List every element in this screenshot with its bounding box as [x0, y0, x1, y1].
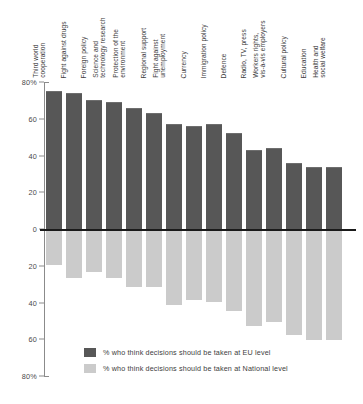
y-axis-tick-label: 60 — [28, 114, 37, 123]
bar-eu-level — [106, 102, 121, 229]
bar-eu-level — [326, 167, 341, 229]
bar-national-level — [266, 230, 281, 322]
category-label-text: Science and technology research — [93, 18, 108, 78]
bar-national-level — [66, 230, 81, 278]
legend-item-national: % who think decisions should be taken at… — [84, 361, 288, 375]
chart-legend: % who think decisions should be taken at… — [84, 345, 288, 377]
bar-eu-level — [66, 93, 81, 229]
bar-national-level — [206, 230, 221, 302]
diverging-bar-chart: 80%604020020406080% Third world cooperat… — [0, 0, 363, 404]
bar-national-level — [186, 230, 201, 300]
bar-eu-level — [166, 124, 181, 229]
category-label-text: Fight against unemployment — [153, 34, 168, 78]
legend-label-national: % who think decisions should be taken at… — [103, 364, 288, 373]
bar-national-level — [226, 230, 241, 311]
y-axis-tick-label: 80% — [22, 78, 37, 87]
category-label-text: Workers rights, vis-à-vis employers — [253, 21, 268, 78]
bar-national-level — [246, 230, 261, 326]
category-label-text: Cultural policy — [280, 36, 287, 78]
bar-eu-level — [206, 124, 221, 229]
y-axis-tick-label: 20 — [28, 188, 37, 197]
bar-eu-level — [86, 100, 101, 229]
bar-national-level — [166, 230, 181, 305]
category-label-text: Defence — [220, 53, 227, 78]
legend-item-eu: % who think decisions should be taken at… — [84, 345, 288, 359]
category-label-text: Fight against drugs — [60, 21, 67, 78]
bar-eu-level — [286, 163, 301, 229]
category-label-text: Education — [300, 48, 307, 78]
bar-eu-level — [266, 148, 281, 229]
legend-swatch-national — [84, 364, 96, 373]
category-label-text: Regional support — [140, 27, 147, 78]
category-label-text: Currency — [180, 51, 187, 78]
bar-eu-level — [306, 167, 321, 229]
y-axis-tick-label: 40 — [28, 151, 37, 160]
y-axis-tick-label: 80% — [22, 372, 37, 381]
y-axis-tick-label: 0 — [33, 225, 37, 234]
bar-national-level — [146, 230, 161, 287]
bar-national-level — [86, 230, 101, 272]
bar-national-level — [46, 230, 61, 265]
bar-eu-level — [226, 133, 241, 229]
category-label-text: Immigration policy — [200, 24, 207, 78]
bar-eu-level — [46, 91, 61, 229]
bar-national-level — [106, 230, 121, 278]
zero-baseline — [40, 229, 356, 231]
y-axis-bottom-cap — [44, 376, 49, 377]
category-label-text: Foreign policy — [80, 36, 87, 78]
category-label-text: Health and social welfare — [313, 37, 328, 78]
legend-swatch-eu — [84, 348, 96, 357]
bar-national-level — [306, 230, 321, 340]
y-axis-tick-label: 40 — [28, 298, 37, 307]
bar-national-level — [126, 230, 141, 287]
category-label-text: Radio, TV, press — [240, 29, 247, 78]
category-label-text: Protection of the environment — [113, 29, 128, 78]
y-axis-tick-label: 20 — [28, 261, 37, 270]
bar-eu-level — [186, 126, 201, 229]
bar-eu-level — [126, 108, 141, 229]
bar-national-level — [326, 230, 341, 340]
legend-label-eu: % who think decisions should be taken at… — [103, 348, 271, 357]
bar-eu-level — [146, 113, 161, 229]
y-axis-tick-label: 60 — [28, 335, 37, 344]
category-label-text: Third world cooperation — [33, 43, 48, 78]
bar-eu-level — [246, 150, 261, 229]
bar-national-level — [286, 230, 301, 335]
